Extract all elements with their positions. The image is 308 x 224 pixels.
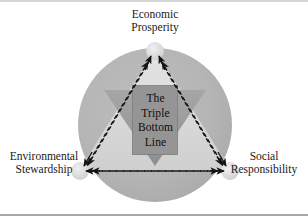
economic-prosperity-line1: Economic [105, 8, 205, 21]
node-economic[interactable] [146, 42, 164, 60]
environmental-stewardship-label: Environmental Stewardship [2, 150, 86, 176]
environmental-stewardship-line1: Environmental [2, 150, 86, 163]
social-responsibility-line1: Social [222, 150, 306, 163]
center-box-text: The Triple Bottom Line [133, 86, 178, 154]
social-responsibility-line2: Responsibility [222, 163, 306, 176]
economic-prosperity-label: Economic Prosperity [105, 8, 205, 34]
economic-prosperity-line2: Prosperity [105, 21, 205, 34]
center-line1: The [146, 91, 164, 106]
bottom-divider [0, 214, 308, 216]
environmental-stewardship-line2: Stewardship [2, 163, 86, 176]
figure-container: Economic Prosperity Environmental Stewar… [0, 0, 308, 224]
center-line3: Bottom [138, 120, 173, 135]
center-line4: Line [145, 135, 166, 150]
social-responsibility-label: Social Responsibility [222, 150, 306, 176]
center-line2: Triple [141, 106, 169, 121]
